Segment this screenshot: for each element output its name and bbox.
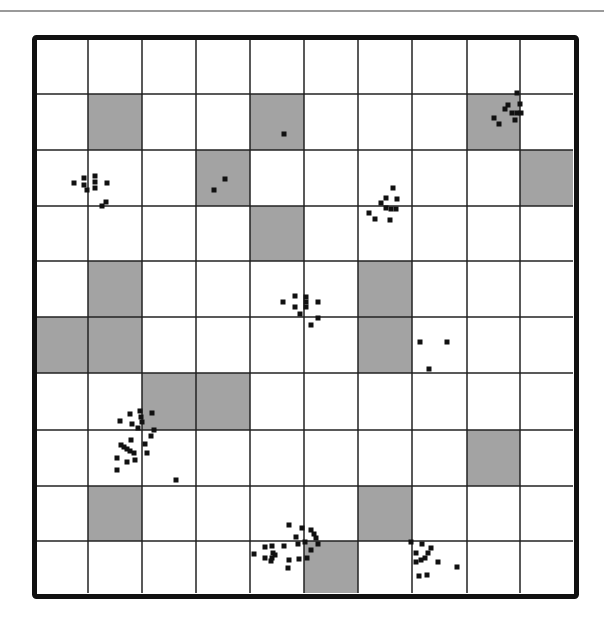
- dot-point: [300, 526, 305, 531]
- dot-point: [286, 566, 291, 571]
- dot-point: [518, 102, 523, 107]
- dot-point: [519, 111, 524, 116]
- dot-point: [223, 177, 228, 182]
- dot-point: [316, 316, 321, 321]
- dot-point: [263, 556, 268, 561]
- dot-point: [309, 323, 314, 328]
- dot-point: [118, 419, 123, 424]
- dot-point: [212, 188, 217, 193]
- shaded-cell: [142, 373, 196, 430]
- dot-point: [128, 412, 133, 417]
- dot-point: [373, 217, 378, 222]
- shaded-cell: [358, 486, 412, 541]
- dot-point: [105, 181, 110, 186]
- dot-point: [418, 340, 423, 345]
- dot-point: [455, 565, 460, 570]
- dot-point: [409, 540, 414, 545]
- shaded-cell: [37, 317, 88, 373]
- dot-point: [414, 551, 419, 556]
- dot-point: [379, 201, 384, 206]
- dot-point: [304, 300, 309, 305]
- dot-point: [174, 478, 179, 483]
- dot-point: [414, 560, 419, 565]
- dot-point: [304, 295, 309, 300]
- shaded-cells: [37, 94, 573, 593]
- dot-point: [510, 111, 515, 116]
- dot-point: [263, 545, 268, 550]
- dot-point: [293, 305, 298, 310]
- dot-point: [425, 573, 430, 578]
- dot-point: [287, 523, 292, 528]
- dot-point: [130, 422, 135, 427]
- shaded-cell: [88, 486, 142, 541]
- dot-point: [515, 91, 520, 96]
- shaded-cell: [520, 150, 573, 206]
- dot-point: [140, 420, 145, 425]
- dot-point: [426, 551, 431, 556]
- dot-point: [367, 211, 372, 216]
- shaded-cell: [88, 94, 142, 150]
- dot-point: [149, 434, 154, 439]
- dot-point: [85, 188, 90, 193]
- dot-point: [115, 456, 120, 461]
- dot-point: [104, 200, 109, 205]
- dot-point: [136, 426, 141, 431]
- dot-point: [143, 442, 148, 447]
- dot-point: [394, 207, 399, 212]
- dot-point: [309, 548, 314, 553]
- dot-point: [282, 132, 287, 137]
- dot-point: [316, 542, 321, 547]
- dot-point: [497, 122, 502, 127]
- dot-point: [389, 207, 394, 212]
- dot-point: [139, 415, 144, 420]
- dot-point: [252, 552, 257, 557]
- dot-point: [297, 557, 302, 562]
- shaded-cell: [250, 206, 304, 261]
- dot-point: [298, 312, 303, 317]
- shaded-cell: [196, 373, 250, 430]
- dot-point: [303, 540, 308, 545]
- shaded-cell: [467, 430, 520, 486]
- dot-point: [296, 542, 301, 547]
- dot-point: [419, 558, 424, 563]
- dot-point: [145, 451, 150, 456]
- dot-point: [93, 174, 98, 179]
- dot-point: [293, 294, 298, 299]
- shaded-cell: [358, 317, 412, 373]
- grid-map: [0, 0, 604, 627]
- dot-point: [129, 438, 134, 443]
- shaded-cell: [358, 261, 412, 317]
- dot-point: [72, 181, 77, 186]
- dot-point: [287, 558, 292, 563]
- dot-point: [305, 556, 310, 561]
- shaded-cell: [250, 94, 304, 150]
- dot-point: [294, 535, 299, 540]
- dot-point: [133, 458, 138, 463]
- dot-point: [152, 428, 157, 433]
- dot-point: [281, 300, 286, 305]
- dot-point: [282, 544, 287, 549]
- dot-point: [492, 116, 497, 121]
- dot-point: [427, 367, 432, 372]
- dot-point: [270, 544, 275, 549]
- dot-point: [93, 186, 98, 191]
- dot-point: [82, 183, 87, 188]
- dot-point: [391, 186, 396, 191]
- dot-point: [269, 559, 274, 564]
- dot-point: [314, 536, 319, 541]
- dot-point: [395, 197, 400, 202]
- dot-point: [150, 411, 155, 416]
- dot-point: [436, 560, 441, 565]
- dot-point: [388, 218, 393, 223]
- shaded-cell: [88, 317, 142, 373]
- dot-point: [273, 553, 278, 558]
- dot-point: [417, 574, 422, 579]
- dot-point: [316, 300, 321, 305]
- dot-point: [138, 409, 143, 414]
- dot-point: [384, 196, 389, 201]
- dot-point: [304, 305, 309, 310]
- dot-point: [445, 340, 450, 345]
- shaded-cell: [88, 261, 142, 317]
- dot-point: [125, 460, 130, 465]
- dot-point: [115, 468, 120, 473]
